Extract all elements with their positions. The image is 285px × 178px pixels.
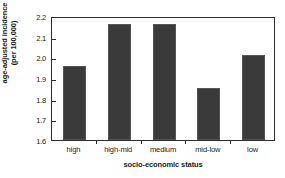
y-axis-tick-labels: 1.61.71.81.92.02.12.2: [24, 0, 46, 178]
x-axis-tick-label: medium: [150, 145, 176, 154]
y-axis-tick-label: 2.1: [24, 33, 46, 42]
bar: [197, 88, 220, 140]
bars-layer: [52, 18, 274, 140]
x-axis-tick-label: high-mid: [104, 145, 132, 154]
bar-chart-figure: age-adjusted incidence (per 100,000) 1.6…: [0, 0, 285, 178]
y-axis-title-line-2: (per 100,000): [10, 21, 19, 66]
bar: [242, 55, 265, 140]
x-axis-tick-mark: [96, 141, 97, 144]
y-axis-tick-label: 1.9: [24, 75, 46, 84]
x-axis-tick-label: mid-low: [195, 145, 220, 154]
y-axis-tick-label: 1.7: [24, 116, 46, 125]
x-axis-title: socio-economic status: [51, 160, 275, 169]
x-axis-tick-label: high: [67, 145, 81, 154]
x-axis-tick-labels: highhigh-midmediummid-lowlow: [51, 145, 275, 159]
x-axis-tick-label: low: [247, 145, 258, 154]
y-axis-tick-label: 2.0: [24, 54, 46, 63]
x-axis-tick-mark: [141, 141, 142, 144]
y-axis-tick-label: 1.6: [24, 137, 46, 146]
y-axis-title: age-adjusted incidence (per 100,000): [0, 0, 20, 103]
y-axis-tick-label: 2.2: [24, 13, 46, 22]
bar: [153, 24, 176, 140]
x-axis-tick-mark: [230, 141, 231, 144]
bar: [63, 66, 86, 140]
x-axis-tick-mark: [185, 141, 186, 144]
y-axis-tick-label: 1.8: [24, 95, 46, 104]
bar: [108, 24, 131, 140]
plot-area: [51, 17, 275, 141]
